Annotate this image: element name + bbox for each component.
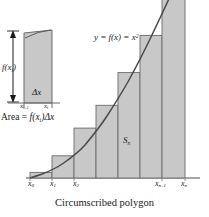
axis-tick-label-x0: x0	[28, 180, 34, 189]
axis-tick-label-xn: xn	[181, 180, 187, 189]
inset-tick-label-right: xi	[44, 103, 48, 111]
riemann-bar	[118, 73, 140, 178]
circumscribed-polygon-figure: f(xi) Δx xi–1 xi Area = f(xi)Δx y = f(x)…	[0, 0, 209, 217]
inset-height-label: f(xi)	[2, 63, 16, 73]
inset-tick-label-left: xi–1	[20, 103, 29, 111]
riemann-bars-group	[30, 0, 185, 178]
riemann-bar	[162, 0, 185, 178]
area-sum-label: Sn	[123, 136, 130, 146]
riemann-bar	[52, 156, 74, 178]
inset-width-label: Δx	[32, 88, 41, 97]
inset-area-formula: Area = f(xi)Δx	[1, 113, 54, 124]
axis-tick-label-xn-1: xn–1	[155, 180, 166, 189]
figure-caption: Circumscribed polygon	[0, 198, 209, 209]
axis-tick-label-x2: x2	[73, 180, 79, 189]
riemann-bar	[140, 35, 162, 178]
curve-equation-label: y = f(x) = x2	[94, 33, 138, 42]
axis-tick-label-x1: x1	[50, 180, 56, 189]
